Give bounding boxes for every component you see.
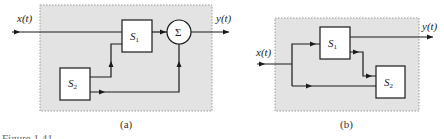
caption-b: (b) — [340, 118, 353, 131]
arrow-icon — [427, 35, 433, 40]
output-label-a: y(t) — [215, 12, 232, 25]
input-label-a: x(t) — [16, 12, 33, 25]
caption-a: (a) — [120, 118, 133, 131]
input-label-b: x(t) — [255, 46, 272, 59]
sum-symbol: Σ — [175, 26, 181, 38]
diagram-b: x(t) S1 y(t) S2 (b) — [255, 18, 438, 131]
arrow-icon — [14, 30, 20, 35]
output-label-b: y(t) — [421, 20, 438, 33]
figure-caption: Figure 1.41 — [2, 132, 53, 139]
figure: x(t) S1 Σ y(t) S2 (a) x(t) — [0, 0, 444, 139]
arrow-icon — [259, 62, 265, 67]
arrow-icon — [223, 30, 229, 35]
diagram-a: x(t) S1 Σ y(t) S2 (a) — [12, 5, 232, 131]
